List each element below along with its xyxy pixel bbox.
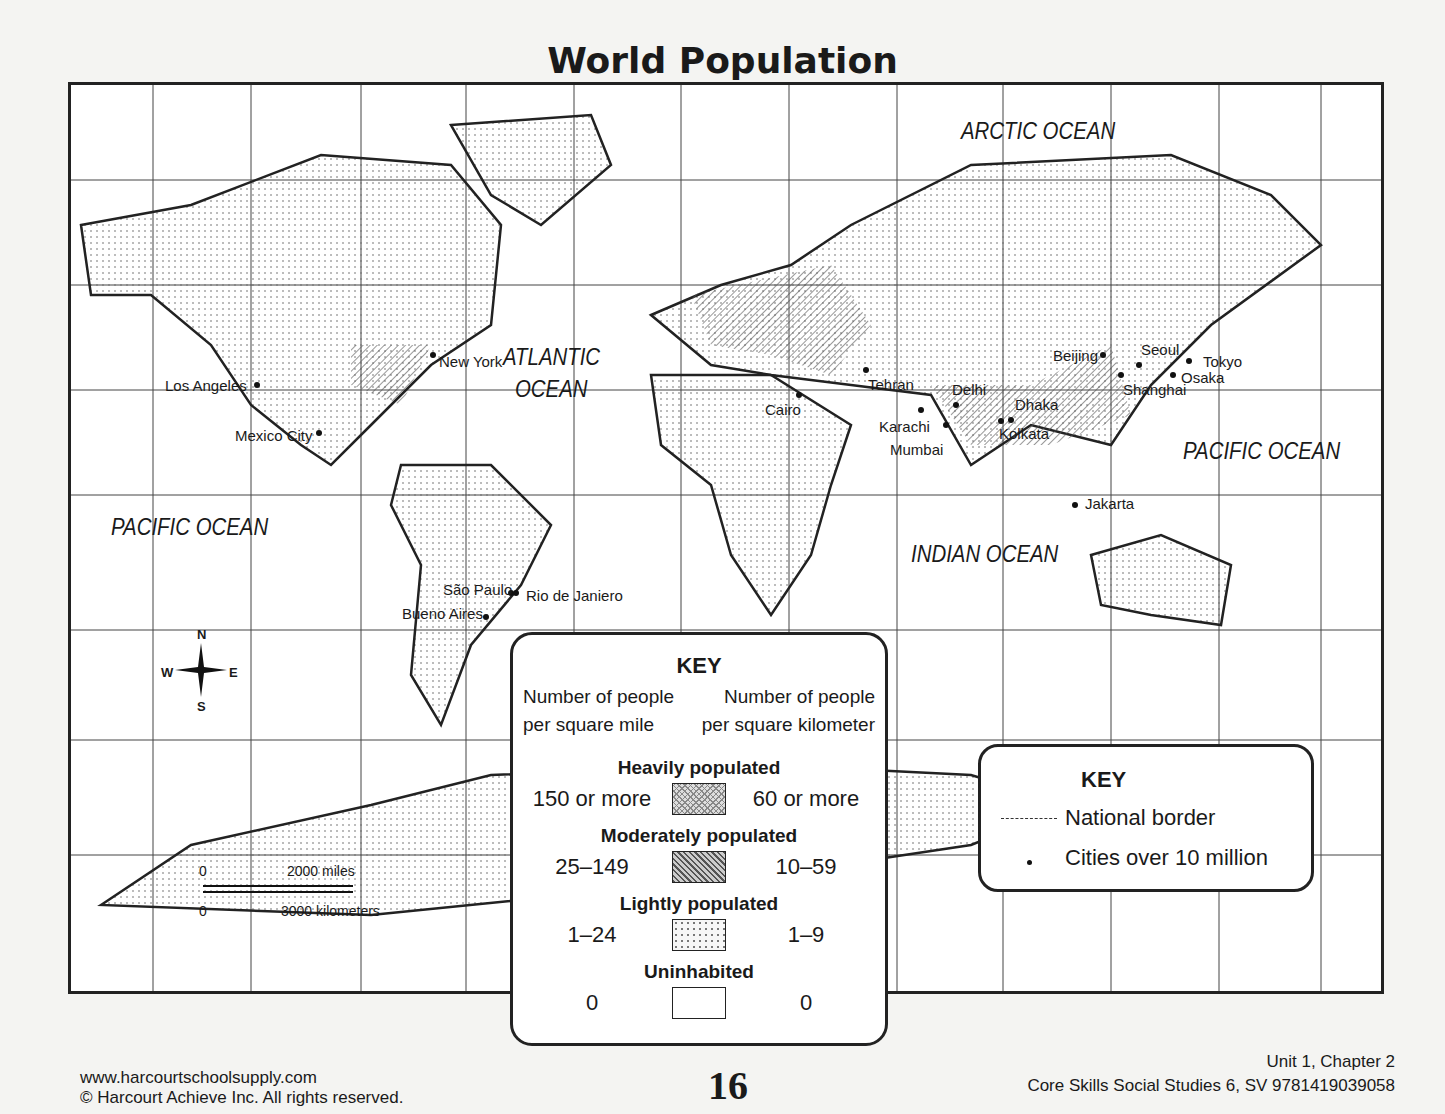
city-dot-icon [918,407,924,413]
key-none-mile: 0 [527,990,657,1016]
key-cat-heavy: Heavily populated [513,757,885,779]
city-dot-icon [1001,845,1057,871]
national-border-icon [1001,818,1057,819]
city-dot-icon [1136,362,1142,368]
moderate-swatch [672,851,726,883]
key2-title: KEY [1081,767,1126,793]
footer-copyright: © Harcourt Achieve Inc. All rights reser… [80,1088,403,1108]
city-label: Bueno Aires [402,605,483,622]
city-label: Dhaka [1015,396,1058,413]
city-label: Delhi [952,381,986,398]
key-col-right: Number of people per square kilometer [702,683,875,739]
footer-url: www.harcourtschoolsupply.com [80,1068,317,1088]
key-none-km: 0 [741,990,871,1016]
symbol-key: KEY National border Cities over 10 milli… [978,744,1314,892]
city-label: Mexico City [235,427,313,444]
scale-bar: 0 2000 miles 0 3000 kilometers [199,863,399,923]
city-dot-icon [316,430,322,436]
key-title: KEY [513,653,885,679]
key-mod-mile: 25–149 [527,854,657,880]
city-label: Rio de Janiero [526,587,623,604]
key-cat-light: Lightly populated [513,893,885,915]
key-cat-moderate: Moderately populated [513,825,885,847]
scale-km: 3000 kilometers [281,903,380,919]
footer-chapter: Unit 1, Chapter 2 [1266,1052,1395,1072]
key-col-right-line1: Number of people [702,683,875,711]
city-dot-icon [796,392,802,398]
city-label: Jakarta [1085,495,1134,512]
city-dot-icon [483,614,489,620]
city-dot-icon [943,422,949,428]
footer-book: Core Skills Social Studies 6, SV 9781419… [1027,1076,1395,1096]
city-label: São Paulo [443,581,512,598]
city-dot-icon [1008,417,1014,423]
city-label: Cairo [765,401,801,418]
compass-n: N [197,627,206,642]
city-dot-icon [254,382,260,388]
city-label: Tokyo [1203,353,1242,370]
city-label: Karachi [879,418,930,435]
city-dot-icon [953,402,959,408]
compass-rose: N S W E [159,627,231,717]
ocean-label-pacific-west: PACIFIC OCEAN [111,513,268,541]
key-col-left: Number of people per square mile [523,683,674,739]
city-dot-icon [1072,502,1078,508]
key-col-left-line1: Number of people [523,683,674,711]
city-dot-icon [863,367,869,373]
key-heavy-km: 60 or more [741,786,871,812]
ocean-label-atlantic-2: OCEAN [515,375,588,403]
city-label: Seoul [1141,341,1179,358]
national-border-label: National border [1065,805,1215,831]
city-label: Cities over 10 million [1065,845,1268,871]
city-dot-icon [1118,372,1124,378]
ocean-label-atlantic: ATLANTIC [503,343,600,371]
population-density-key: KEY Number of people per square mile Num… [510,632,888,1046]
light-swatch [672,919,726,951]
city-label: Osaka [1181,369,1224,386]
city-label: Mumbai [890,441,943,458]
city-dot-icon [1186,358,1192,364]
key-cat-uninhabited: Uninhabited [513,961,885,983]
key-col-left-line2: per square mile [523,711,674,739]
compass-w: W [161,665,173,680]
uninhabited-swatch [672,987,726,1019]
ocean-label-arctic: ARCTIC OCEAN [961,117,1115,145]
compass-s: S [197,699,206,714]
city-dot-icon [513,590,519,596]
city-label: Kolkata [999,425,1049,442]
scale-zero-km: 0 [199,903,207,919]
city-label: Beijing [1053,347,1098,364]
scale-miles: 2000 miles [287,863,355,879]
compass-star-icon [175,643,227,697]
page-number: 16 [708,1062,748,1109]
city-dot-icon [430,352,436,358]
key-col-right-line2: per square kilometer [702,711,875,739]
city-dot-icon [998,418,1004,424]
compass-e: E [229,665,238,680]
heavy-swatch [672,783,726,815]
ocean-label-pacific-east: PACIFIC OCEAN [1183,437,1340,465]
city-label: Shanghai [1123,381,1186,398]
key-light-mile: 1–24 [527,922,657,948]
city-label: Tehran [868,376,914,393]
city-label: New York [439,353,502,370]
city-dot-icon [1100,352,1106,358]
ocean-label-indian: INDIAN OCEAN [911,540,1058,568]
key-heavy-mile: 150 or more [527,786,657,812]
scale-zero-miles: 0 [199,863,207,879]
key-light-km: 1–9 [741,922,871,948]
city-label: Los Angeles [165,377,247,394]
city-dot-icon [1170,372,1176,378]
key-mod-km: 10–59 [741,854,871,880]
map-title: World Population [0,40,1445,81]
